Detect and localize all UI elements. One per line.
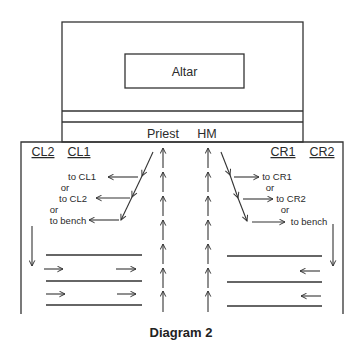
dest-or: or — [266, 182, 274, 193]
right-distribution: to CR1 or to CR2 or to bench — [221, 152, 333, 266]
diagonal-arrow-icon — [221, 152, 230, 175]
diagonal-arrow-icon — [132, 176, 142, 197]
column-labels: CL2 CL1 CR1 CR2 — [32, 145, 335, 159]
sanctuary: Altar Priest HM — [62, 22, 303, 142]
left-pews — [44, 255, 142, 305]
dest-or: or — [281, 204, 289, 215]
diagonal-arrow-icon — [230, 175, 238, 198]
priest-label: Priest — [147, 127, 179, 141]
right-pews — [227, 256, 322, 306]
dest-or: or — [50, 204, 58, 215]
altar-label: Altar — [172, 65, 198, 79]
dest-to-cl1: to CL1 — [68, 171, 96, 182]
dest-to-bench: to bench — [50, 215, 86, 226]
diagonal-arrow-icon — [142, 152, 153, 176]
column-label-cl1: CL1 — [68, 145, 91, 159]
sanctuary-outline — [62, 22, 303, 142]
nave-outline — [21, 142, 343, 314]
dest-to-cr1: to CR1 — [262, 171, 292, 182]
center-aisle-arrows — [163, 148, 208, 312]
dest-to-bench: to bench — [291, 216, 327, 227]
hm-label: HM — [197, 127, 216, 141]
left-distribution: to CL1 or to CL2 or to bench — [32, 152, 153, 266]
diagonal-arrow-icon — [238, 198, 247, 221]
diagram-canvas: Altar Priest HM CL2 CL1 CR1 CR2 — [0, 0, 361, 354]
dest-to-cr2: to CR2 — [276, 193, 306, 204]
diagonal-arrow-icon — [121, 197, 132, 220]
dest-to-cl2: to CL2 — [59, 193, 87, 204]
column-label-cr1: CR1 — [270, 145, 295, 159]
diagram-caption: Diagram 2 — [150, 325, 213, 340]
nave — [21, 142, 343, 314]
column-label-cr2: CR2 — [309, 145, 334, 159]
dest-or: or — [61, 182, 69, 193]
column-label-cl2: CL2 — [32, 145, 55, 159]
